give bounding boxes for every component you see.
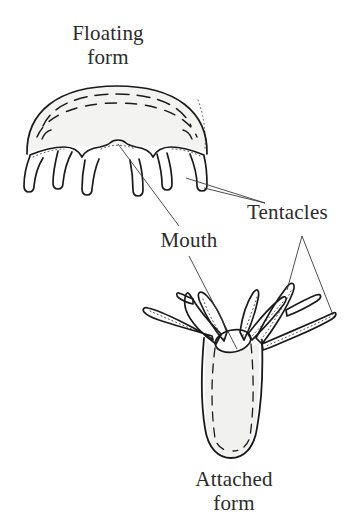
polyp-tentacle-left-upper-a — [185, 293, 221, 344]
label-floating-form: Floating form — [42, 22, 174, 69]
medusa-bell-fill — [27, 86, 207, 152]
medusa-tentacle-5 — [157, 153, 172, 190]
leader-mouth-to-polyp — [189, 256, 237, 349]
label-mouth: Mouth — [137, 229, 241, 253]
polyp-drawing — [143, 283, 336, 458]
polyp-body-fill — [205, 340, 260, 457]
medusa-tentacle-4 — [130, 159, 143, 196]
medusa-tentacle-1 — [24, 156, 43, 192]
medusa-tentacle-6 — [190, 154, 207, 191]
medusa-tentacle-3 — [82, 159, 99, 195]
label-tentacles: Tentacles — [247, 201, 363, 225]
medusa-rim-shading — [33, 149, 64, 157]
leader-mouth-to-medusa — [118, 144, 179, 226]
polyp-tentacle-right-tall — [256, 283, 294, 344]
cnidarian-diagram — [0, 0, 363, 531]
label-attached-form: Attached form — [164, 468, 304, 515]
leader-tentacles-to-polyp-b — [302, 236, 333, 315]
leader-tentacles-to-polyp-a — [287, 236, 302, 290]
medusa-drawing — [24, 86, 207, 196]
medusa-tentacle-2 — [53, 151, 72, 189]
polyp-shading-5 — [266, 317, 330, 346]
